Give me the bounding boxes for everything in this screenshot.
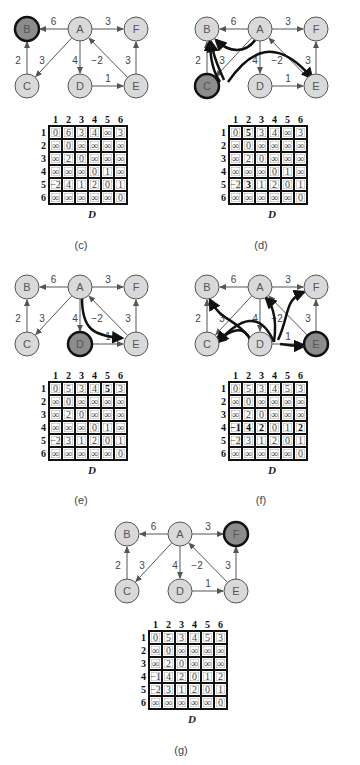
matrix-cell: ∞ xyxy=(281,139,294,152)
matrix-row: 1053453 xyxy=(136,631,227,644)
matrix-row: 6∞∞∞∞∞0 xyxy=(216,191,307,204)
edge-weight-label: 3 xyxy=(305,55,311,66)
matrix-cell: ∞ xyxy=(201,696,214,709)
column-header: 3 xyxy=(75,370,88,382)
matrix-cell: ∞ xyxy=(88,395,101,408)
node-A: A xyxy=(68,275,92,299)
matrix-cell: 3 xyxy=(242,178,255,191)
svg-text:A: A xyxy=(176,528,184,540)
matrix-row: 3∞20∞∞∞ xyxy=(216,408,307,421)
matrix-cell: 1 xyxy=(255,178,268,191)
column-header: 5 xyxy=(281,114,294,126)
matrix-cell: ∞ xyxy=(101,395,114,408)
matrix-label: D xyxy=(262,208,282,220)
matrix-cell: 3 xyxy=(294,126,307,139)
svg-text:E: E xyxy=(132,338,139,350)
column-header: 1 xyxy=(49,114,62,126)
matrix-cell: 1 xyxy=(281,421,294,434)
svg-text:A: A xyxy=(256,23,264,35)
edge-weight-label: 3 xyxy=(205,521,211,532)
matrix-cell: ∞ xyxy=(62,165,75,178)
column-header: 4 xyxy=(268,114,281,126)
row-header: 1 xyxy=(36,126,49,139)
matrix-label: D xyxy=(262,464,282,476)
edge-weight-label: 2 xyxy=(195,313,201,324)
node-F: F xyxy=(124,275,148,299)
matrix-cell: 3 xyxy=(294,382,307,395)
node-C: C xyxy=(195,74,219,98)
column-header: 4 xyxy=(268,370,281,382)
matrix-cell: 0 xyxy=(294,447,307,460)
column-header: 6 xyxy=(294,370,307,382)
matrix-cell: ∞ xyxy=(268,191,281,204)
edge-weight-label: 6 xyxy=(231,274,237,285)
matrix-cell: −1 xyxy=(149,670,162,683)
edge-weight-label: 3 xyxy=(225,560,231,571)
node-C: C xyxy=(15,74,39,98)
matrix-cell: 2 xyxy=(214,670,227,683)
edge-weight-label: 1 xyxy=(285,331,291,342)
column-header: 1 xyxy=(49,370,62,382)
edge-weight-label: 3 xyxy=(125,55,131,66)
column-header: 5 xyxy=(201,619,214,631)
node-E: E xyxy=(304,74,328,98)
edge-weight-label: 1 xyxy=(285,73,291,84)
column-header: 2 xyxy=(242,114,255,126)
svg-text:D: D xyxy=(76,80,84,92)
edge-weight-label: 6 xyxy=(51,274,57,285)
matrix-cell: 1 xyxy=(114,434,127,447)
node-B: B xyxy=(115,522,139,546)
matrix-cell: 0 xyxy=(149,631,162,644)
matrix-cell: ∞ xyxy=(114,139,127,152)
matrix-cell: 3 xyxy=(114,382,127,395)
matrix-cell: 2 xyxy=(175,670,188,683)
svg-text:E: E xyxy=(312,80,319,92)
node-E: E xyxy=(124,332,148,356)
column-header: 3 xyxy=(255,370,268,382)
matrix-row: 6∞∞∞∞∞0 xyxy=(216,447,307,460)
matrix-cell: 5 xyxy=(281,382,294,395)
node-F: F xyxy=(304,275,328,299)
column-header: 1 xyxy=(149,619,162,631)
row-header: 4 xyxy=(216,421,229,434)
node-A: A xyxy=(168,522,192,546)
matrix-cell: ∞ xyxy=(114,152,127,165)
matrix-cell: ∞ xyxy=(281,126,294,139)
matrix-cell: 4 xyxy=(88,126,101,139)
matrix-cell: 2 xyxy=(62,152,75,165)
matrix-cell: ∞ xyxy=(229,165,242,178)
matrix-cell: −2 xyxy=(229,178,242,191)
row-header: 3 xyxy=(216,408,229,421)
matrix-cell: ∞ xyxy=(214,644,227,657)
edge-weight-label: 3 xyxy=(285,16,291,27)
panel-caption: (e) xyxy=(66,494,96,506)
matrix-cell: ∞ xyxy=(188,696,201,709)
matrix-cell: ∞ xyxy=(229,191,242,204)
row-header: 3 xyxy=(216,152,229,165)
matrix-cell: ∞ xyxy=(49,152,62,165)
matrix-cell: 0 xyxy=(268,421,281,434)
matrix-cell: 2 xyxy=(188,683,201,696)
matrix-cell: 5 xyxy=(201,631,214,644)
matrix-cell: ∞ xyxy=(281,447,294,460)
graph-f: 63234−213ABFCDE xyxy=(180,258,350,368)
matrix-row: 1053453 xyxy=(36,382,127,395)
matrix-cell: 0 xyxy=(62,139,75,152)
svg-text:F: F xyxy=(313,23,320,35)
matrix-cell: ∞ xyxy=(62,421,75,434)
column-header: 2 xyxy=(62,370,75,382)
matrix-cell: ∞ xyxy=(281,152,294,165)
matrix-cell: ∞ xyxy=(88,191,101,204)
svg-text:E: E xyxy=(312,338,319,350)
svg-text:C: C xyxy=(123,585,131,597)
matrix-cell: 3 xyxy=(175,631,188,644)
matrix-row: 10534∞3 xyxy=(216,126,307,139)
matrix-cell: −2 xyxy=(229,434,242,447)
matrix-cell: ∞ xyxy=(49,191,62,204)
matrix-cell: 3 xyxy=(75,382,88,395)
matrix-row: 2∞0∞∞∞∞ xyxy=(216,139,307,152)
matrix-cell: ∞ xyxy=(114,421,127,434)
graph-c: 63234−213ABFCDE xyxy=(0,0,170,110)
matrix-cell: 0 xyxy=(75,152,88,165)
matrix-cell: ∞ xyxy=(188,657,201,670)
